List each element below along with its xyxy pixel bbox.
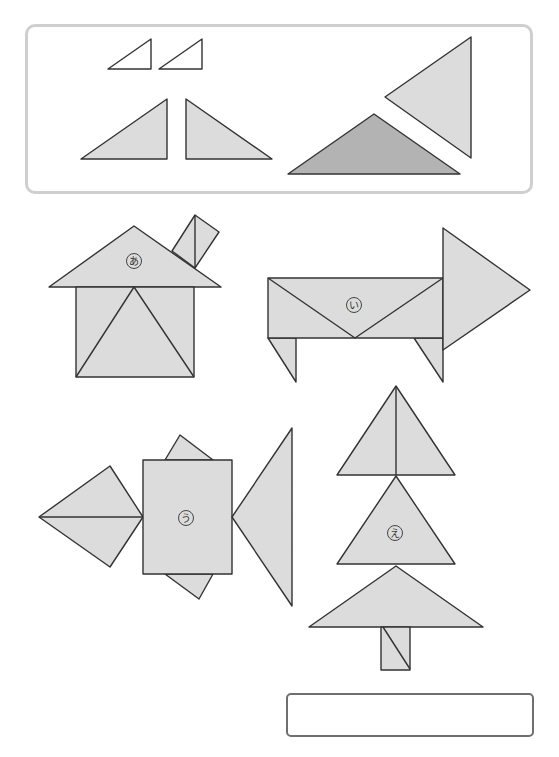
small-triangle-2 (159, 39, 202, 69)
small-triangle-1 (108, 39, 151, 69)
figure-label-e: え (387, 525, 403, 541)
figure-label-u: う (178, 510, 194, 526)
figure-arrow-dog[interactable] (268, 228, 530, 382)
medium-triangle-1 (81, 99, 167, 159)
figure-label-i: い (346, 297, 362, 313)
answer-box[interactable] (286, 693, 534, 737)
figure-label-a: あ (126, 253, 142, 269)
figure-fish[interactable] (39, 428, 292, 606)
figure-house[interactable] (49, 215, 221, 377)
puzzle-canvas (0, 0, 559, 757)
medium-triangle-2 (186, 99, 272, 159)
